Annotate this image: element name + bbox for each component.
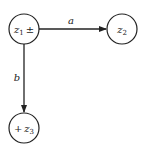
edge-label-a: a	[68, 15, 74, 26]
edge-a: a	[39, 15, 106, 29]
node-z3: +z3	[9, 113, 39, 143]
node-z1: z1±	[9, 14, 39, 44]
edge-label-b: b	[14, 72, 20, 83]
edge-b: b	[14, 44, 24, 112]
node-z2: z2	[107, 14, 137, 44]
graph-diagram: a b z1± z2 +z3	[0, 0, 146, 153]
